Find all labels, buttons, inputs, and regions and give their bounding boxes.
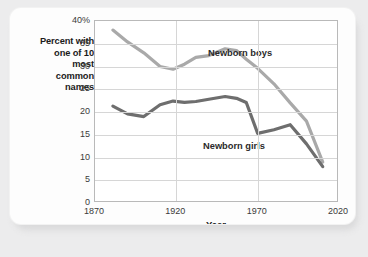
x-axis-tick-label: 1920 xyxy=(165,206,185,216)
gridline-horizontal xyxy=(95,180,337,181)
y-axis-tick-labels: 0510152025303540% xyxy=(54,20,90,202)
y-axis-tick-label: 30 xyxy=(56,61,90,71)
gridline-horizontal xyxy=(95,44,337,45)
y-axis-tick-label: 35 xyxy=(56,38,90,48)
y-axis-tick-label: 25 xyxy=(56,83,90,93)
chart-card: Percent with one of 10 most common names… xyxy=(10,8,355,224)
x-axis-tick-label: 1970 xyxy=(247,206,267,216)
y-axis-tick-label: 20 xyxy=(56,106,90,116)
y-axis-tick-label: 10 xyxy=(56,152,90,162)
gridline-horizontal xyxy=(95,158,337,159)
gridline-horizontal xyxy=(95,112,337,113)
series-line-newborn-girls xyxy=(113,97,323,167)
gridline-horizontal xyxy=(95,135,337,136)
series-label-newborn-boys: Newborn boys xyxy=(208,48,272,58)
chart-card-inner: Percent with one of 10 most common names… xyxy=(10,8,355,224)
y-axis-tick-label: 40% xyxy=(56,15,90,25)
y-axis-tick-label: 15 xyxy=(56,129,90,139)
series-label-newborn-girls: Newborn girls xyxy=(203,141,265,151)
x-axis-title: Year xyxy=(94,219,338,224)
x-axis-tick-labels: 1870192019702020 xyxy=(94,206,338,220)
gridline-horizontal xyxy=(95,89,337,90)
gridline-horizontal xyxy=(95,67,337,68)
y-axis-tick-label: 5 xyxy=(56,174,90,184)
plot-area: Newborn boys Newborn girls xyxy=(94,20,338,202)
screenshot-root: Percent with one of 10 most common names… xyxy=(0,0,368,257)
gridline-vertical xyxy=(258,21,259,201)
x-axis-tick-label: 2020 xyxy=(328,206,348,216)
x-axis-tick-label: 1870 xyxy=(84,206,104,216)
gridline-vertical xyxy=(176,21,177,201)
